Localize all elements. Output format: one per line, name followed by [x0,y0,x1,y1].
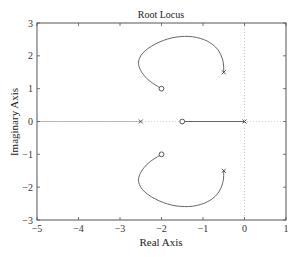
zero-marker [180,119,185,124]
chart-title: Root Locus [138,9,184,20]
y-tick-label: −3 [22,215,33,226]
y-axis-label: Imaginary Axis [8,88,20,156]
zero-marker [159,152,164,157]
x-tick-label: −2 [156,223,167,234]
x-tick-label: −4 [73,223,84,234]
y-tick-label: 2 [28,50,33,61]
y-tick-label: 1 [28,83,33,94]
x-tick-label: −1 [198,223,209,234]
y-tick-label: 3 [28,18,33,29]
y-tick-label: 0 [28,116,33,127]
x-tick-label: 0 [242,223,247,234]
x-axis-label: Real Axis [139,236,182,248]
y-tick-label: −1 [22,149,33,160]
root-locus-chart: −5−4−3−2−1013210−1−2−3 Root Locus Real A… [0,0,297,257]
y-tick-label: −2 [22,182,33,193]
x-tick-label: −5 [32,223,43,234]
x-tick-label: −3 [115,223,126,234]
x-tick-label: 1 [284,223,289,234]
zero-marker [159,86,164,91]
